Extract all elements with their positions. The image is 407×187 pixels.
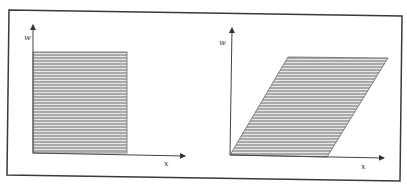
- parallelogram-region: [230, 57, 388, 157]
- left-x-axis: [33, 153, 185, 156]
- right-y-axis: [230, 28, 232, 155]
- left-x-axis-label: x: [164, 159, 169, 168]
- right-x-axis-label: x: [361, 162, 366, 171]
- left-panel: w x: [24, 25, 185, 168]
- right-y-axis-label: w: [219, 38, 226, 47]
- right-panel: w x: [219, 28, 388, 171]
- figure: w x w x: [0, 0, 407, 187]
- left-y-axis-label: w: [24, 33, 31, 42]
- rectangle-region: [33, 52, 127, 153]
